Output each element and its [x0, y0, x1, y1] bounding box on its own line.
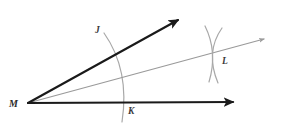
point-label-l: L — [221, 56, 228, 66]
intersection-arc-from-k — [212, 28, 222, 83]
point-label-k: K — [127, 106, 135, 116]
upper-ray-mj — [28, 20, 178, 103]
diagram-canvas: M J K L — [0, 0, 282, 126]
point-label-j: J — [94, 25, 100, 35]
lower-ray-mk — [28, 102, 233, 103]
vertex-label-m: M — [8, 98, 19, 109]
bisector-ray-ml — [28, 39, 264, 103]
geometry-diagram: M J K L — [0, 0, 282, 126]
